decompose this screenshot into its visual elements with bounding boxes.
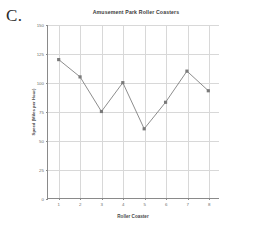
chart-title: Amusement Park Roller Coasters [48, 9, 224, 15]
data-point-marker [143, 127, 146, 130]
x-tick-mark [166, 198, 167, 200]
x-tick-label: 5 [144, 202, 146, 207]
x-tick-mark [123, 198, 124, 200]
y-tick-label: 0 [42, 197, 44, 202]
data-series-line [48, 25, 219, 198]
y-tick-mark [46, 199, 48, 200]
x-tick-label: 1 [58, 202, 60, 207]
x-tick-mark [145, 198, 146, 200]
x-tick-mark [80, 198, 81, 200]
data-point-marker [207, 89, 210, 92]
x-tick-label: 3 [101, 202, 103, 207]
y-tick-label: 50 [39, 139, 44, 144]
y-tick-label: 125 [37, 52, 44, 57]
data-point-marker [185, 70, 188, 73]
x-tick-mark [102, 198, 103, 200]
x-tick-label: 8 [208, 202, 210, 207]
data-point-marker [121, 81, 124, 84]
x-tick-label: 2 [79, 202, 81, 207]
x-tick-mark [209, 198, 210, 200]
x-axis-label: Roller Coaster [47, 214, 219, 219]
x-tick-label: 7 [187, 202, 189, 207]
data-point-marker [78, 75, 81, 78]
x-tick-mark [59, 198, 60, 200]
data-point-marker [164, 101, 167, 104]
x-tick-mark [188, 198, 189, 200]
y-tick-label: 25 [39, 168, 44, 173]
chart-figure: Amusement Park Roller Coasters 025507510… [0, 0, 262, 232]
y-tick-label: 100 [37, 81, 44, 86]
y-axis-label: Speed (Miles per Hour) [31, 89, 36, 136]
y-tick-label: 75 [39, 110, 44, 115]
data-point-marker [57, 58, 60, 61]
x-tick-label: 4 [122, 202, 124, 207]
plot-area: 0255075100125150 12345678 [47, 25, 219, 199]
data-point-marker [100, 110, 103, 113]
x-tick-label: 6 [165, 202, 167, 207]
y-tick-label: 150 [37, 23, 44, 28]
